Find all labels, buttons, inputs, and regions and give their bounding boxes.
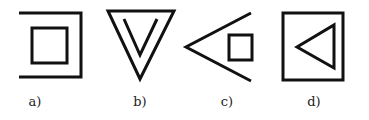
inner-v-shape [124, 19, 157, 55]
angle-shape [186, 13, 251, 81]
square-shape [229, 35, 252, 60]
figure-c [186, 13, 252, 81]
figure-d [283, 13, 343, 80]
square-shape [32, 28, 67, 63]
figure-label-a: a) [29, 94, 42, 109]
figure-label-d: d) [307, 94, 320, 109]
triangle-shape [108, 11, 174, 79]
figure-b [108, 11, 174, 79]
figure-a [19, 13, 81, 77]
triangle-shape [297, 25, 334, 68]
figure-label-b: b) [133, 94, 146, 109]
open-bracket-shape [19, 13, 81, 77]
figure-label-c: c) [221, 94, 233, 109]
